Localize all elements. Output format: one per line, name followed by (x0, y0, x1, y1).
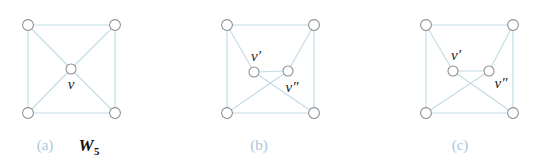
vertex-label-v-prime: v′ (251, 48, 262, 64)
panel-a-caption-name-subscript: 5 (94, 145, 100, 157)
panel-c: v′v″(c) (421, 20, 519, 154)
panel-c-nodes (421, 20, 519, 119)
graph-node-v-prime (249, 67, 259, 77)
graph-edge (288, 25, 314, 71)
graph-node-center (66, 64, 76, 74)
vertex-label-v-prime: v′ (451, 47, 462, 63)
panel-a-caption-tag: (a) (37, 137, 54, 154)
panel-a: v(a)W5 (23, 20, 121, 157)
graph-node-bottom-right (508, 108, 519, 119)
graph-node-top-left (421, 20, 432, 31)
graph-node-top-left (222, 20, 233, 31)
vertex-label-center: v (68, 76, 75, 92)
graph-node-bottom-right (309, 108, 320, 119)
graph-node-v-prime (448, 66, 458, 76)
vertex-label-v-doubleprime: v″ (495, 75, 509, 91)
panel-a-caption-name: W (78, 136, 95, 155)
panel-b-edges (227, 25, 314, 113)
graph-edge (71, 25, 115, 69)
graph-edge (254, 72, 314, 113)
graph-node-top-right (110, 20, 121, 31)
graph-node-top-left (23, 20, 34, 31)
graph-edge (489, 25, 513, 71)
graph-edge (227, 25, 254, 72)
panel-c-edges (426, 25, 513, 113)
graph-node-bottom-right (110, 108, 121, 119)
panel-b-caption-tag: (b) (250, 137, 268, 154)
graph-figure: v(a)W5v′v″(b)v′v″(c) (0, 0, 544, 165)
vertex-label-v-doubleprime: v″ (286, 79, 300, 95)
graph-node-bottom-left (23, 108, 34, 119)
graph-edge (28, 69, 71, 113)
graph-node-bottom-left (421, 108, 432, 119)
graph-node-v-doubleprime (283, 66, 293, 76)
panel-b: v′v″(b) (222, 20, 320, 154)
panel-c-caption-tag: (c) (452, 137, 469, 154)
panel-b-nodes (222, 20, 320, 119)
graph-edge (426, 25, 453, 71)
graph-node-v-doubleprime (484, 66, 494, 76)
graph-edge (426, 71, 489, 113)
graph-node-bottom-left (222, 108, 233, 119)
graph-edge (71, 69, 115, 113)
graph-edge (28, 25, 71, 69)
graph-node-top-right (508, 20, 519, 31)
graph-node-top-right (309, 20, 320, 31)
figure-canvas: v(a)W5v′v″(b)v′v″(c) (0, 0, 544, 165)
graph-edge (227, 71, 288, 113)
